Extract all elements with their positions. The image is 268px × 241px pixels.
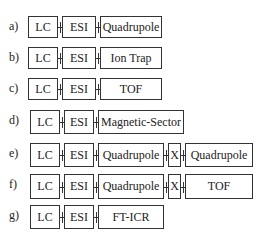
stage-box: Quadrupole xyxy=(100,16,162,38)
stage-box: Quadrupole xyxy=(98,143,164,167)
stage-box: LC xyxy=(30,110,60,134)
stage-box: ESI xyxy=(64,205,94,229)
row-label: d) xyxy=(9,113,19,128)
row-label: e) xyxy=(9,146,18,161)
stage-box: TOF xyxy=(185,174,253,199)
configuration-row: e)LCESIQuadrupoleXQuadrupole xyxy=(0,143,268,167)
row-label: a) xyxy=(9,19,18,34)
stage-box: LC xyxy=(28,78,58,100)
configuration-row: a)LCESIQuadrupole xyxy=(0,16,268,38)
stage-box: ESI xyxy=(62,47,96,69)
configuration-row: g)LCESIFT-ICR xyxy=(0,205,268,229)
stage-box: LC xyxy=(28,47,58,69)
stage-box: TOF xyxy=(100,78,162,100)
stage-box: ESI xyxy=(62,78,96,100)
stage-box: LC xyxy=(28,16,58,38)
stage-box: ESI xyxy=(64,174,94,199)
stage-box: ESI xyxy=(64,143,94,167)
configuration-row: b)LCESIIon Trap xyxy=(0,47,268,69)
stage-box: LC xyxy=(30,174,60,199)
stage-box: X xyxy=(168,143,181,167)
row-label: c) xyxy=(9,81,18,96)
stage-box: FT-ICR xyxy=(98,205,164,229)
configuration-row: c)LCESITOF xyxy=(0,78,268,100)
stage-box: ESI xyxy=(64,110,94,134)
row-label: f) xyxy=(9,177,17,192)
configuration-row: d)LCESIMagnetic-Sector xyxy=(0,110,268,134)
configuration-row: f)LCESIQuadrupoleXTOF xyxy=(0,174,268,199)
stage-box: LC xyxy=(30,143,60,167)
row-label: b) xyxy=(9,50,19,65)
stage-box: Quadrupole xyxy=(185,143,253,167)
stage-box: ESI xyxy=(62,16,96,38)
row-label: g) xyxy=(9,208,19,223)
stage-box: LC xyxy=(30,205,60,229)
stage-box: Magnetic-Sector xyxy=(98,110,184,134)
stage-box: Quadrupole xyxy=(98,174,164,199)
stage-box: Ion Trap xyxy=(100,47,162,69)
stage-box: X xyxy=(168,174,181,199)
